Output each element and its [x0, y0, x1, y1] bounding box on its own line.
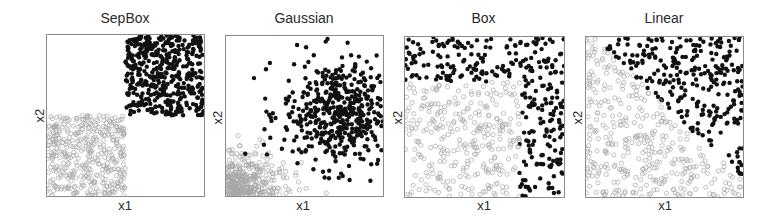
data-point-positive [691, 43, 695, 47]
data-point-positive [736, 166, 740, 170]
data-point-negative [593, 100, 597, 104]
data-point-positive [727, 81, 731, 85]
data-point-positive [647, 55, 651, 59]
data-point-negative [586, 56, 590, 60]
data-point-negative [673, 157, 677, 161]
data-point-positive [732, 68, 736, 72]
data-point-positive [671, 85, 675, 89]
y-axis-label: x2 [570, 103, 585, 133]
data-point-positive [670, 64, 674, 68]
data-point-positive [695, 83, 699, 87]
data-point-negative [587, 104, 591, 108]
data-point-negative [632, 121, 636, 125]
data-point-positive [657, 80, 661, 84]
data-point-negative [637, 157, 641, 161]
data-point-negative [639, 137, 643, 141]
data-point-positive [683, 88, 687, 92]
data-point-positive [685, 113, 689, 117]
data-point-negative [635, 114, 639, 118]
data-point-positive [692, 56, 696, 60]
data-point-positive [695, 127, 699, 131]
data-point-positive [712, 80, 716, 84]
data-point-positive [650, 79, 654, 83]
data-point-negative [673, 124, 677, 128]
data-point-negative [637, 106, 641, 110]
data-point-negative [604, 135, 608, 139]
data-point-positive [676, 77, 680, 81]
data-point-negative [643, 149, 647, 153]
data-point-positive [714, 64, 718, 68]
data-point-negative [590, 41, 594, 45]
data-point-negative [652, 115, 656, 119]
data-point-positive [725, 120, 729, 124]
data-point-negative [603, 83, 607, 87]
data-point-positive [712, 118, 716, 122]
data-point-negative [625, 124, 629, 128]
data-point-positive [625, 42, 629, 46]
data-point-positive [695, 104, 699, 108]
data-point-negative [650, 136, 654, 140]
data-point-positive [630, 53, 634, 57]
data-point-negative [626, 146, 630, 150]
data-point-positive [652, 72, 656, 76]
data-point-negative [617, 193, 621, 197]
data-point-positive [740, 84, 743, 88]
data-point-negative [602, 113, 606, 117]
data-point-positive [736, 66, 740, 70]
data-point-positive [636, 61, 640, 65]
data-point-negative [641, 116, 645, 120]
data-point-negative [586, 191, 588, 195]
data-point-positive [735, 118, 739, 122]
data-point-negative [604, 71, 608, 75]
data-point-negative [612, 164, 616, 168]
data-point-positive [662, 73, 666, 77]
data-point-negative [639, 124, 643, 128]
data-point-positive [640, 61, 644, 65]
data-point-negative [694, 187, 698, 191]
data-point-positive [698, 37, 702, 41]
data-point-negative [619, 101, 623, 105]
data-point-positive [719, 130, 723, 134]
data-point-positive [680, 55, 684, 59]
data-point-negative [680, 179, 684, 183]
data-point-positive [667, 106, 671, 110]
data-point-negative [602, 87, 606, 91]
data-point-negative [665, 191, 669, 195]
data-point-negative [634, 175, 638, 179]
data-point-positive [722, 112, 726, 116]
data-point-positive [729, 44, 733, 48]
data-point-negative [697, 146, 701, 150]
chart-title: Linear [585, 10, 743, 26]
data-point-negative [640, 195, 644, 197]
data-point-negative [627, 106, 631, 110]
data-point-positive [730, 160, 734, 164]
data-point-positive [725, 93, 729, 97]
data-point-negative [722, 187, 726, 191]
data-point-negative [588, 184, 592, 188]
data-point-positive [659, 58, 663, 62]
data-point-positive [736, 70, 740, 74]
data-point-negative [621, 154, 625, 158]
data-point-positive [740, 64, 743, 68]
data-point-negative [659, 105, 663, 109]
data-point-positive [714, 41, 718, 45]
data-point-negative [613, 66, 617, 70]
data-point-negative [611, 114, 615, 118]
data-point-negative [626, 150, 630, 154]
data-point-positive [710, 123, 714, 127]
data-point-positive [696, 121, 700, 125]
data-point-positive [684, 38, 688, 42]
data-point-negative [710, 181, 714, 185]
data-point-negative [609, 131, 613, 135]
data-point-positive [727, 153, 731, 157]
data-point-negative [645, 113, 649, 117]
data-point-negative [612, 153, 616, 157]
data-point-negative [640, 96, 644, 100]
data-point-negative [624, 116, 628, 120]
data-point-positive [709, 51, 713, 55]
data-point-positive [617, 38, 621, 42]
data-point-positive [702, 104, 706, 108]
data-point-positive [668, 74, 672, 78]
data-point-negative [604, 126, 608, 130]
data-point-negative [703, 159, 707, 163]
